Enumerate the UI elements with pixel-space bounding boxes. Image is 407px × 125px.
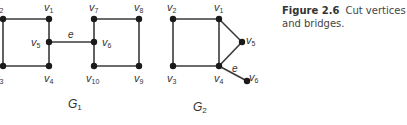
vertex-label-v8: v8	[134, 2, 143, 14]
figure-caption: Figure 2.6Cut vertices and bridges.	[282, 4, 406, 30]
vertex-label-v10: v10	[86, 73, 99, 85]
vertex-label-v4: v4	[214, 73, 223, 85]
vertex-label-v4: v4	[44, 73, 53, 85]
vertex-label-v6: v6	[102, 37, 111, 49]
graph-g2	[170, 16, 250, 84]
vertex-label-v5: v5	[246, 35, 255, 47]
vertex-label-v3: v3	[0, 73, 3, 85]
vertex-v5	[46, 39, 52, 45]
vertex-v5	[239, 39, 245, 45]
vertex-v7	[91, 16, 97, 22]
graph-g2-label: G2	[193, 101, 207, 115]
vertex-v8	[136, 16, 142, 22]
vertex-v6	[91, 39, 97, 45]
vertex-v4	[46, 63, 52, 69]
vertex-label-v7: v7	[89, 2, 98, 14]
vertex-label-v6: v6	[249, 72, 258, 84]
vertex-label-v5: v5	[31, 37, 40, 49]
edge-v1-v5	[219, 19, 242, 42]
vertex-v3	[170, 63, 176, 69]
vertex-v1	[46, 16, 52, 22]
vertex-label-v1: v1	[44, 2, 53, 14]
bridge-label: e	[68, 30, 74, 40]
bridge-label: e	[232, 64, 238, 74]
vertex-v4	[216, 63, 222, 69]
graph-g1-label: G1	[68, 98, 82, 112]
vertex-label-v1: v1	[214, 2, 223, 14]
figure-number: Figure 2.6	[282, 5, 339, 16]
vertex-label-v9: v9	[134, 73, 143, 85]
graph-g1	[0, 16, 142, 69]
vertex-v10	[91, 63, 97, 69]
vertex-v2	[0, 16, 6, 22]
vertex-label-v2: v2	[167, 2, 176, 14]
vertex-v3	[0, 63, 6, 69]
vertex-v2	[170, 16, 176, 22]
edge-v5-v4	[219, 42, 242, 66]
vertex-v9	[136, 63, 142, 69]
vertex-v1	[216, 16, 222, 22]
vertex-label-v3: v3	[167, 73, 176, 85]
vertex-label-v2: v2	[0, 2, 3, 14]
